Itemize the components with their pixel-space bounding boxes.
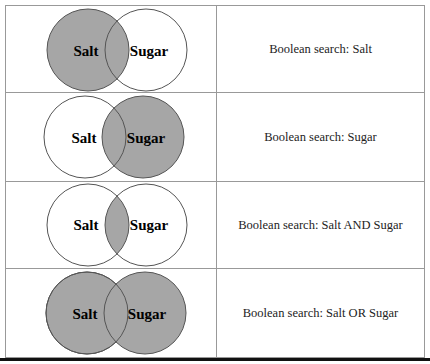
caption: Boolean search: Salt AND Sugar [217,182,425,269]
venn-diagram-and: Salt Sugar [6,182,216,268]
svg-text:Sugar: Sugar [128,306,167,322]
row-salt: Salt Sugar Boolean search: Salt [6,6,425,93]
bottom-rule [0,358,430,361]
svg-text:Salt: Salt [73,43,98,59]
venn-diagram-or: Salt Sugar [6,269,216,357]
caption: Boolean search: Salt [217,6,425,93]
svg-text:Sugar: Sugar [130,217,169,233]
boolean-search-table: Salt Sugar Boolean search: Salt Salt Sug… [5,5,425,358]
svg-text:Salt: Salt [71,130,96,146]
venn-cell: Salt Sugar [6,182,217,269]
venn-cell: Salt Sugar [6,93,217,182]
svg-text:Salt: Salt [72,306,97,322]
venn-diagram-salt: Salt Sugar [6,6,216,92]
venn-cell: Salt Sugar [6,6,217,93]
svg-text:Sugar: Sugar [127,130,166,146]
venn-diagram-sugar: Salt Sugar [6,93,216,181]
venn-cell: Salt Sugar [6,269,217,358]
svg-text:Sugar: Sugar [130,43,169,59]
row-or: Salt Sugar Boolean search: Salt OR Sugar [6,269,425,358]
row-and: Salt Sugar Boolean search: Salt AND Suga… [6,182,425,269]
caption: Boolean search: Sugar [217,93,425,182]
row-sugar: Salt Sugar Boolean search: Sugar [6,93,425,182]
caption: Boolean search: Salt OR Sugar [217,269,425,358]
svg-text:Salt: Salt [73,217,98,233]
